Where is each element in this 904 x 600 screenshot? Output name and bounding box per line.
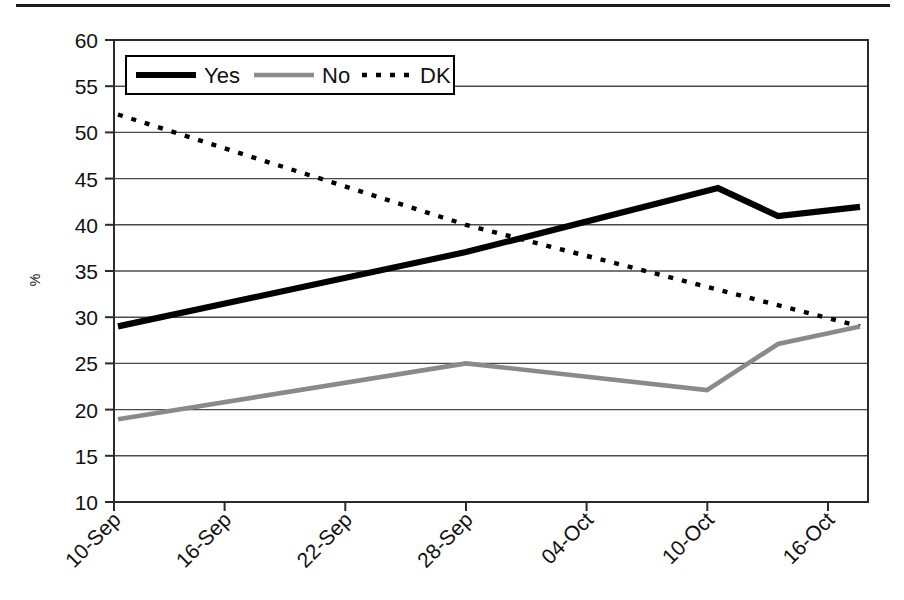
x-tick-labels: 10-Sep 16-Sep 22-Sep 28-Sep 04-Oct 10-Oc… — [61, 507, 839, 571]
y-tick-labels: 60 55 50 45 40 35 30 25 20 15 10 — [75, 29, 98, 514]
y-tick-label: 45 — [75, 168, 98, 191]
chart-page: 60 55 50 45 40 35 30 25 20 15 10 % 10-Se… — [0, 0, 904, 600]
y-tick-label: 50 — [75, 121, 98, 144]
legend-label-dk: DK — [420, 63, 451, 88]
x-tick-label: 28-Sep — [413, 508, 477, 572]
y-tick-label: 35 — [75, 260, 98, 283]
x-tick-label: 10-Oct — [657, 507, 718, 568]
y-tick-label: 40 — [75, 214, 98, 237]
x-tick-label: 16-Oct — [778, 507, 839, 568]
x-tick-label: 22-Sep — [292, 508, 356, 572]
x-tick-label: 16-Sep — [171, 508, 235, 572]
x-tick-label: 04-Oct — [537, 507, 598, 568]
legend-label-yes: Yes — [204, 63, 240, 88]
x-tick-label: 10-Sep — [61, 508, 125, 572]
y-tick-label: 55 — [75, 75, 98, 98]
line-chart-figure: 60 55 50 45 40 35 30 25 20 15 10 % 10-Se… — [0, 0, 904, 600]
chart-legend[interactable]: Yes No DK — [126, 56, 454, 94]
y-tick-label: 60 — [75, 29, 98, 52]
y-tick-label: 25 — [75, 352, 98, 375]
y-tick-marks — [105, 40, 114, 502]
y-tick-label: 30 — [75, 306, 98, 329]
chart-svg: 60 55 50 45 40 35 30 25 20 15 10 % 10-Se… — [0, 0, 904, 600]
y-tick-label: 20 — [75, 399, 98, 422]
legend-label-no: No — [322, 63, 350, 88]
y-tick-label: 15 — [75, 445, 98, 468]
y-tick-label: 10 — [75, 491, 98, 514]
y-axis-title: % — [27, 274, 43, 286]
